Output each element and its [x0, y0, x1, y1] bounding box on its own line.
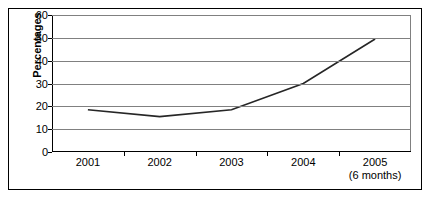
- plot-area: [52, 15, 411, 152]
- x-tick-label: 2001: [52, 156, 124, 184]
- y-tick-mark-30: [48, 84, 52, 85]
- y-axis-tick-labels: 0102030405060: [22, 8, 48, 160]
- x-tick-label-year: 2001: [52, 156, 124, 169]
- x-tick-label: 2005(6 months): [339, 156, 411, 184]
- y-tick-label: 10: [22, 123, 48, 135]
- gridline-y-50: [52, 38, 411, 39]
- y-tick-label: 60: [22, 9, 48, 21]
- x-tick-label: 2003: [196, 156, 268, 184]
- x-tick-label-year: 2004: [267, 156, 339, 169]
- gridline-y-30: [52, 84, 411, 85]
- chart-figure: Percentages 0102030405060 20012002200320…: [0, 0, 431, 201]
- y-tick-label: 30: [22, 78, 48, 90]
- y-tick-mark-50: [48, 38, 52, 39]
- x-tick-label-year: 2003: [196, 156, 268, 169]
- y-tick-mark-20: [48, 106, 52, 107]
- x-tick-label-year: 2005: [339, 156, 411, 169]
- x-tick-label: 2002: [124, 156, 196, 184]
- gridline-y-20: [52, 106, 411, 107]
- y-tick-label: 20: [22, 100, 48, 112]
- x-tick-label: 2004: [267, 156, 339, 184]
- x-tick-label-note: (6 months): [339, 169, 411, 182]
- y-tick-mark-10: [48, 129, 52, 130]
- gridline-y-60: [52, 15, 411, 16]
- gridline-y-10: [52, 129, 411, 130]
- y-tick-mark-60: [48, 15, 52, 16]
- x-tick-label-year: 2002: [124, 156, 196, 169]
- y-tick-mark-0: [48, 152, 52, 153]
- y-tick-label: 0: [22, 146, 48, 158]
- y-tick-mark-40: [48, 61, 52, 62]
- x-axis-tick-labels: 20012002200320042005(6 months): [52, 156, 411, 186]
- y-tick-label: 50: [22, 32, 48, 44]
- y-tick-label: 40: [22, 55, 48, 67]
- gridline-y-40: [52, 61, 411, 62]
